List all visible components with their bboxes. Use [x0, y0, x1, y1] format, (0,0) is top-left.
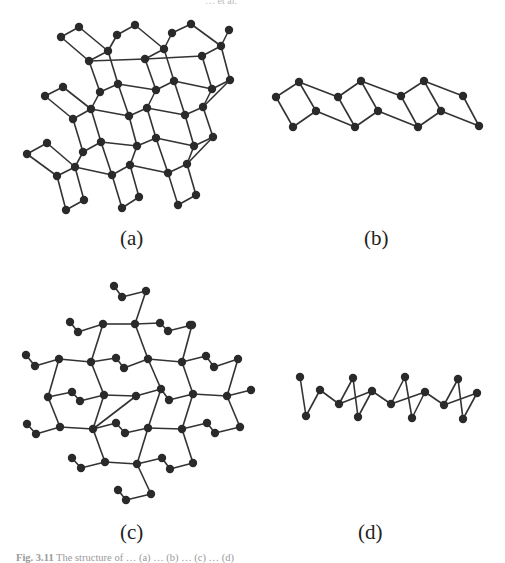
atom	[97, 138, 105, 146]
bond	[145, 59, 156, 90]
bond	[118, 84, 129, 116]
bond	[299, 82, 316, 111]
atom	[152, 86, 160, 94]
bond	[174, 81, 212, 89]
atom	[437, 107, 445, 115]
atom	[122, 496, 130, 504]
atom	[440, 401, 448, 409]
bond	[182, 362, 193, 394]
atom	[295, 78, 303, 86]
atom	[77, 464, 85, 472]
atom	[125, 112, 133, 120]
bond	[276, 97, 293, 127]
atom	[178, 358, 186, 366]
atom	[166, 465, 174, 473]
atom	[459, 415, 467, 423]
atom	[226, 76, 234, 84]
bond	[193, 394, 227, 396]
bond	[91, 109, 101, 142]
bond	[424, 81, 463, 96]
bond	[59, 359, 91, 362]
caption-text: The structure of … (a) … (b) … (c) … (d)	[56, 552, 234, 563]
atom	[272, 93, 280, 101]
bond	[112, 175, 122, 208]
atom	[170, 77, 178, 85]
atom	[133, 460, 141, 468]
atom	[71, 163, 79, 171]
atom	[183, 160, 191, 168]
atom	[79, 148, 87, 156]
bond	[187, 137, 213, 164]
bond	[182, 325, 192, 362]
atom	[76, 397, 84, 405]
atom	[192, 191, 200, 199]
atom	[387, 400, 395, 408]
bond	[148, 428, 182, 429]
atom	[152, 134, 160, 142]
bond	[45, 96, 73, 119]
atom	[189, 459, 197, 467]
atom	[174, 201, 182, 209]
atom	[133, 142, 141, 150]
bond	[48, 397, 60, 427]
bond	[89, 61, 100, 92]
bond	[137, 464, 151, 494]
bond	[73, 119, 83, 152]
atom	[68, 454, 76, 462]
atom	[189, 390, 197, 398]
atom	[368, 387, 376, 395]
bond	[148, 359, 182, 362]
atom	[349, 374, 357, 382]
atom	[43, 139, 51, 147]
atom	[209, 133, 217, 141]
atom	[210, 363, 218, 371]
bond	[75, 167, 112, 175]
bond	[441, 111, 479, 126]
atom	[87, 358, 95, 366]
bond	[299, 82, 338, 97]
bond	[101, 142, 112, 175]
bond	[130, 165, 139, 197]
atom	[335, 400, 343, 408]
bond	[203, 107, 213, 137]
bond	[91, 362, 104, 395]
atom	[108, 171, 116, 179]
bond	[105, 462, 137, 464]
bond	[27, 154, 57, 176]
atom	[121, 429, 129, 437]
atom	[351, 123, 359, 131]
bond	[156, 138, 194, 146]
atom	[112, 419, 120, 427]
bond	[424, 81, 441, 111]
atom	[208, 85, 216, 93]
atom	[44, 393, 52, 401]
bond	[316, 111, 355, 127]
atom	[69, 115, 77, 123]
atom	[118, 293, 126, 301]
atom	[101, 458, 109, 466]
atom	[41, 92, 49, 100]
atom	[247, 386, 255, 394]
bond	[79, 27, 108, 51]
bond	[361, 81, 378, 111]
bond	[91, 109, 129, 116]
bond	[187, 164, 196, 195]
bond	[75, 167, 84, 200]
atom	[104, 47, 112, 55]
atom	[114, 486, 122, 494]
atom	[199, 103, 207, 111]
atom	[164, 169, 172, 177]
atom	[414, 123, 422, 131]
atom	[100, 391, 108, 399]
bond	[118, 84, 156, 90]
bond	[101, 142, 137, 146]
atom	[202, 352, 210, 360]
atom	[223, 392, 231, 400]
atom	[475, 122, 483, 130]
bond	[338, 81, 361, 97]
atom	[114, 80, 122, 88]
bond	[463, 96, 479, 126]
atom	[234, 355, 242, 363]
atom	[87, 105, 95, 113]
atom	[203, 419, 211, 427]
